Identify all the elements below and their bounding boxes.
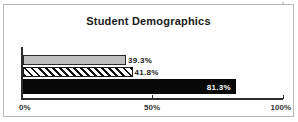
x-axis-tick (152, 95, 153, 99)
bar-value-label: 39.3% (128, 56, 152, 65)
chart-frame: Student Demographics 39.3% 41.8% 81.3% (3, 4, 294, 117)
bar-series-2[interactable]: 41.8% (23, 67, 133, 77)
bar-value-label: 41.8% (135, 68, 159, 77)
bar-series-1[interactable]: 39.3% (23, 55, 126, 65)
plot-area: 39.3% 41.8% 81.3% 0% 50% 100% (21, 47, 283, 99)
scan-artifact (282, 2, 284, 4)
bar-series-3[interactable]: 81.3% (23, 79, 236, 94)
x-axis-label-0: 0% (19, 103, 31, 112)
x-axis-label-50: 50% (144, 103, 160, 112)
bar-value-label: 81.3% (207, 82, 231, 91)
x-axis-tick (21, 95, 22, 99)
chart-container: Student Demographics 39.3% 41.8% 81.3% (0, 0, 298, 122)
x-axis-label-100: 100% (271, 103, 291, 112)
chart-title: Student Demographics (4, 15, 293, 27)
x-axis-tick (283, 95, 284, 99)
